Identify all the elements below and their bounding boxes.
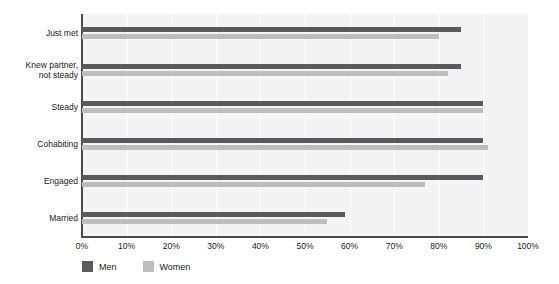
x-tick-label: 90% xyxy=(475,241,492,251)
gridline xyxy=(439,14,440,236)
bar-women-3 xyxy=(82,145,488,150)
x-tick-label: 70% xyxy=(386,241,403,251)
x-tick-label: 80% xyxy=(430,241,447,251)
x-tick-label: 100% xyxy=(517,241,539,251)
gridline xyxy=(394,14,395,236)
bar-men-0 xyxy=(82,27,461,32)
legend-label: Men xyxy=(99,262,117,272)
bar-men-1 xyxy=(82,64,461,69)
bar-women-1 xyxy=(82,71,448,76)
bar-women-5 xyxy=(82,219,327,224)
horizontal-bar-chart: Just metKnew partner, not steadySteadyCo… xyxy=(0,0,559,284)
x-tick-label: 50% xyxy=(296,241,313,251)
gridline xyxy=(305,14,306,236)
chart-legend: MenWomen xyxy=(82,261,190,272)
gridline xyxy=(171,14,172,236)
bar-women-4 xyxy=(82,182,425,187)
bar-men-4 xyxy=(82,175,483,180)
x-tick-label: 60% xyxy=(341,241,358,251)
legend-swatch-icon xyxy=(143,261,154,272)
category-axis-labels: Just metKnew partner, not steadySteadyCo… xyxy=(0,14,78,236)
gridline xyxy=(483,14,484,236)
bar-women-2 xyxy=(82,108,483,113)
bar-men-3 xyxy=(82,138,483,143)
category-label: Married xyxy=(4,213,78,223)
y-axis-line xyxy=(81,14,83,236)
legend-item-women[interactable]: Women xyxy=(143,261,191,272)
x-axis-tick-labels: 0%10%20%30%40%50%60%70%80%90%100% xyxy=(0,241,559,255)
legend-label: Women xyxy=(160,262,191,272)
bar-men-5 xyxy=(82,212,345,217)
gridline xyxy=(528,14,529,236)
category-label: Engaged xyxy=(4,176,78,186)
category-label: Knew partner, not steady xyxy=(4,60,78,80)
bar-women-0 xyxy=(82,34,439,39)
gridline xyxy=(216,14,217,236)
x-tick-label: 0% xyxy=(76,241,88,251)
x-tick-label: 40% xyxy=(252,241,269,251)
legend-swatch-icon xyxy=(82,261,93,272)
bar-men-2 xyxy=(82,101,483,106)
x-tick-label: 30% xyxy=(207,241,224,251)
plot-area xyxy=(82,14,528,236)
category-label: Steady xyxy=(4,102,78,112)
gridline xyxy=(260,14,261,236)
x-tick-label: 10% xyxy=(118,241,135,251)
x-tick-label: 20% xyxy=(163,241,180,251)
legend-item-men[interactable]: Men xyxy=(82,261,117,272)
category-label: Cohabiting xyxy=(4,139,78,149)
gridline xyxy=(350,14,351,236)
category-label: Just met xyxy=(4,28,78,38)
gridline xyxy=(127,14,128,236)
x-axis-line xyxy=(81,236,528,238)
